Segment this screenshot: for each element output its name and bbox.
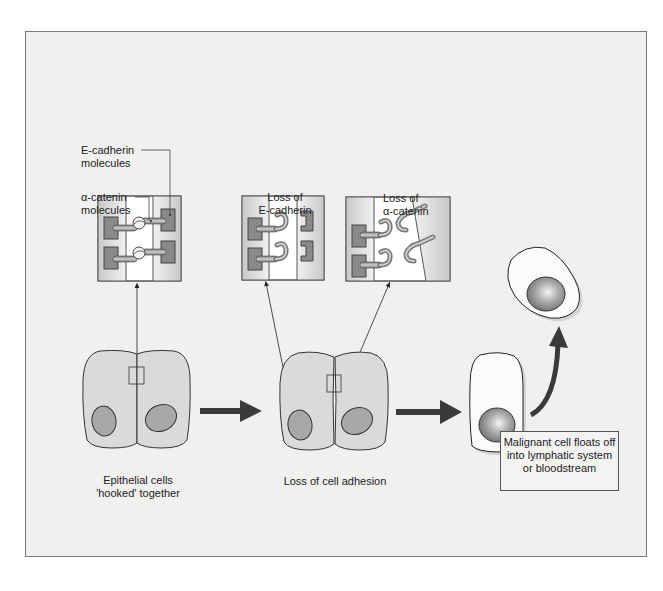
stage1-caption-line2: 'hooked' together [88, 487, 188, 500]
loss-a-catenin-line1: Loss of [383, 192, 429, 205]
diagram-canvas [0, 0, 663, 591]
a-catenin-label-line2: molecules [81, 204, 131, 217]
floating-malignant-cell [508, 247, 583, 321]
progression-arrow-1 [200, 400, 262, 422]
e-cadherin-label-line1: E-cadherin [81, 144, 134, 157]
stage1-caption-line1: Epithelial cells [88, 474, 188, 487]
malignant-callout-box: Malignant cell floats off into lymphatic… [500, 431, 619, 491]
loss-e-cadherin-label: Loss of E-cadherin [250, 191, 320, 217]
loss-a-catenin-label: Loss of α-catenin [383, 192, 429, 218]
stage2-caption: Loss of cell adhesion [275, 475, 395, 488]
callout-line3: or bloodstream [501, 462, 618, 475]
loss-e-cadherin-line2: E-cadherin [250, 204, 320, 217]
e-cadherin-label-line2: molecules [81, 157, 134, 170]
loss-e-cadherin-line1: Loss of [250, 191, 320, 204]
stage1-caption: Epithelial cells 'hooked' together [88, 474, 188, 500]
epithelial-cells-hooked [83, 350, 190, 448]
stage2-caption-line1: Loss of cell adhesion [275, 475, 395, 488]
e-cadherin-label: E-cadherin molecules [81, 144, 134, 170]
cells-loss-of-adhesion [280, 352, 388, 450]
callout-line2: into lymphatic system [501, 449, 618, 462]
callout-line1: Malignant cell floats off [501, 436, 618, 449]
a-catenin-label: α-catenin molecules [81, 191, 131, 217]
a-catenin-label-line1: α-catenin [81, 191, 131, 204]
float-off-arrow [531, 326, 568, 415]
progression-arrow-2 [396, 400, 462, 424]
loss-a-catenin-line2: α-catenin [383, 205, 429, 218]
